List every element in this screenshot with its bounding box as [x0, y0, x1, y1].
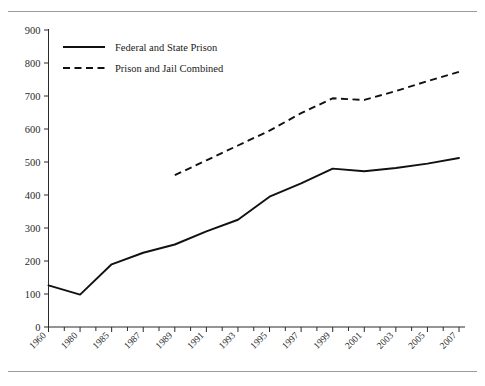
y-axis: 0100200300400500600700800900 [25, 25, 49, 333]
y-tick-label: 100 [25, 289, 41, 300]
x-tick-label: 1960 [27, 330, 48, 351]
y-tick-label: 400 [25, 190, 41, 201]
y-tick-label: 300 [25, 223, 41, 234]
x-tick-label: 1989 [154, 330, 175, 351]
line-chart: 0100200300400500600700800900 19601980198… [0, 0, 485, 386]
x-tick-label: 2007 [438, 330, 459, 351]
legend-label-2: Prison and Jail Combined [115, 63, 224, 74]
y-tick-label: 900 [25, 25, 41, 36]
x-tick-label: 1991 [185, 330, 206, 351]
x-tick-label: 2005 [406, 330, 427, 351]
y-tick-label: 500 [25, 157, 41, 168]
figure-container: 0100200300400500600700800900 19601980198… [0, 0, 485, 386]
chart-plot-area: 0100200300400500600700800900 19601980198… [0, 0, 485, 386]
chart-legend: Federal and State PrisonPrison and Jail … [63, 42, 224, 74]
x-tick-label: 2001 [343, 330, 364, 351]
x-axis: 1960198019851987198919911993199519971999… [27, 327, 465, 351]
x-tick-label: 1987 [122, 330, 143, 351]
x-tick-label: 1980 [59, 330, 80, 351]
x-tick-label: 1993 [217, 330, 238, 351]
data-series-group [49, 72, 460, 295]
y-tick-label: 200 [25, 256, 41, 267]
series-line-2 [175, 72, 459, 175]
x-tick-label: 1997 [280, 330, 301, 351]
legend-label-1: Federal and State Prison [115, 42, 218, 53]
x-tick-label: 1985 [91, 330, 112, 351]
y-tick-label: 600 [25, 124, 41, 135]
x-tick-label: 1995 [248, 330, 269, 351]
x-tick-label: 1999 [312, 330, 333, 351]
series-line-1 [49, 158, 460, 295]
y-tick-label: 700 [25, 91, 41, 102]
y-tick-label: 800 [25, 58, 41, 69]
x-tick-label: 2003 [375, 330, 396, 351]
